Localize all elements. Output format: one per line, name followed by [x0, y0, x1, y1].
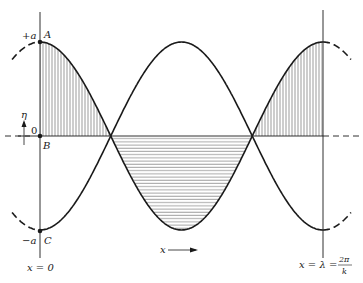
label-eta: η [21, 109, 27, 120]
point-A-dot [38, 40, 43, 45]
x-arrow-head-icon [190, 248, 198, 253]
label-x-arrow: x [160, 244, 166, 255]
label-B: B [42, 140, 50, 151]
left-lobe-hatch [40, 42, 111, 136]
standing-wave-diagram: +a A 0 B η −a C x x = 0 x = λ = 2π k [0, 0, 363, 283]
label-2pi: 2π [338, 255, 350, 264]
label-x-equals-0: x = 0 [27, 262, 54, 273]
label-plus-a: +a [22, 30, 36, 41]
dashed-extension-right-bottom [323, 212, 351, 230]
label-A: A [43, 29, 51, 40]
label-k: k [342, 267, 347, 276]
dashed-extension-left-bottom [12, 212, 40, 230]
middle-lobe-hatch [111, 136, 253, 230]
label-x-equals-lambda: x = λ = [299, 259, 337, 270]
dashed-extension-right-top [323, 42, 351, 60]
eta-arrow-head-icon [22, 120, 27, 127]
dashed-extension-left-top [12, 42, 40, 60]
label-C: C [44, 235, 52, 246]
label-origin: 0 [31, 125, 37, 136]
right-lobe-hatch [252, 42, 323, 136]
label-minus-a: −a [22, 235, 36, 246]
point-C-dot [38, 229, 43, 234]
point-B-dot [38, 134, 43, 139]
